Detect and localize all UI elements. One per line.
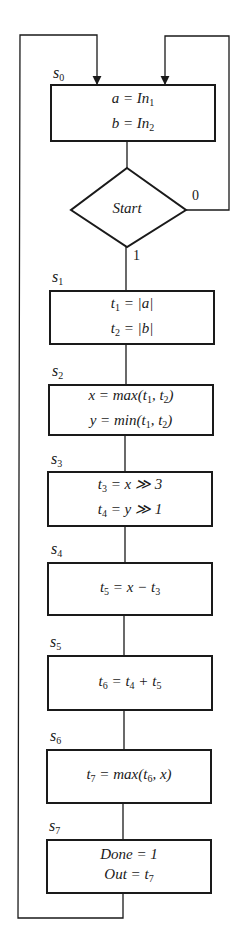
start-decision-label: Start: [96, 200, 158, 217]
state-box-s6: t7 = max(t6, x): [46, 749, 212, 804]
state-label-s4: s4: [51, 540, 62, 559]
branch-label-1: 1: [133, 248, 140, 264]
state-label-s3: s3: [51, 450, 62, 469]
s6-line-1: t7 = max(t6, x): [86, 764, 171, 789]
s5-line-1: t6 = t4 + t5: [99, 671, 162, 696]
s1-line-2: t2 = |b|: [111, 318, 154, 343]
state-box-s0: a = In1 b = In2: [50, 84, 216, 142]
state-box-s2: x = max(t1, t2)y = min(t1, t2): [48, 384, 214, 436]
state-label-s7: s7: [49, 817, 60, 836]
s3-line-1: t3 = x ≫ 3: [98, 474, 162, 499]
state-label-s2: s2: [52, 362, 63, 381]
s0-line-2: b = In2: [112, 113, 155, 138]
state-box-s4: t5 = x − t3: [47, 562, 213, 616]
branch-label-0: 0: [192, 188, 199, 204]
s7-line-2: Out = t7: [104, 864, 153, 889]
state-box-s1: t1 = |a|t2 = |b|: [49, 290, 215, 345]
s1-line-1: t1 = |a|: [111, 293, 154, 318]
s0-line-1: a = In1: [112, 88, 155, 113]
state-box-s7: Done = 1Out = t7: [46, 839, 212, 894]
state-box-s3: t3 = x ≫ 3t4 = y ≫ 1: [47, 471, 213, 527]
s7-line-1: Done = 1: [100, 844, 158, 864]
state-label-s0: s0: [53, 64, 64, 83]
s3-line-2: t4 = y ≫ 1: [98, 499, 162, 524]
s2-line-1: x = max(t1, t2): [88, 385, 173, 410]
state-label-s1: s1: [52, 268, 63, 287]
s2-line-2: y = min(t1, t2): [90, 410, 173, 435]
state-label-s6: s6: [50, 727, 61, 746]
state-box-s5: t6 = t4 + t5: [47, 655, 213, 711]
state-label-s5: s5: [50, 633, 61, 652]
s4-line-1: t5 = x − t3: [100, 577, 160, 602]
